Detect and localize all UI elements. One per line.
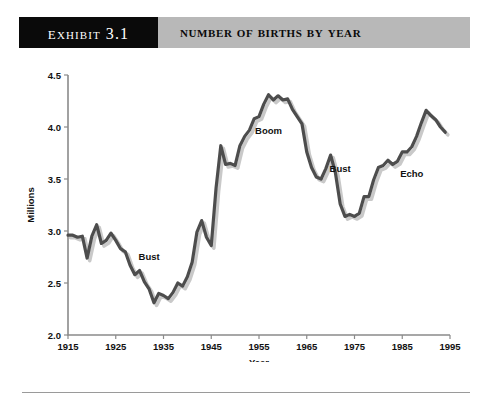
exhibit-title-block: Number of Births by Year bbox=[158, 17, 470, 48]
footer-divider bbox=[22, 392, 470, 393]
y-tick-label: 2.5 bbox=[48, 278, 62, 289]
x-tick-label: 1945 bbox=[201, 341, 223, 352]
chart-axes bbox=[64, 75, 450, 339]
exhibit-number-block: Exhibit 3.1 bbox=[19, 17, 158, 48]
annotation-bust: Bust bbox=[139, 251, 161, 262]
exhibit-header: Exhibit 3.1 Number of Births by Year bbox=[19, 17, 470, 48]
x-tick-label: 1915 bbox=[57, 341, 79, 352]
x-tick-label: 1925 bbox=[105, 341, 127, 352]
annotation-bust: Bust bbox=[330, 163, 352, 174]
chart-container: 2.02.53.03.54.04.51915192519351945195519… bbox=[0, 52, 489, 362]
x-tick-label: 1965 bbox=[296, 341, 318, 352]
exhibit-title-label: Number of Births by Year bbox=[180, 24, 361, 41]
annotation-echo: Echo bbox=[400, 168, 423, 179]
x-tick-label: 1975 bbox=[344, 341, 366, 352]
exhibit-number-label: Exhibit 3.1 bbox=[48, 22, 129, 44]
annotation-boom: Boom bbox=[255, 125, 282, 136]
y-tick-label: 2.0 bbox=[48, 330, 61, 341]
chart-annotations: BustBoomBustEcho bbox=[139, 125, 424, 262]
chart-tick-labels: 2.02.53.03.54.04.51915192519351945195519… bbox=[48, 70, 461, 353]
y-axis-title: Millions bbox=[25, 187, 36, 222]
x-tick-label: 1985 bbox=[392, 341, 414, 352]
x-tick-label: 1995 bbox=[439, 341, 461, 352]
x-tick-label: 1935 bbox=[153, 341, 175, 352]
y-tick-label: 4.0 bbox=[48, 122, 61, 133]
y-tick-label: 4.5 bbox=[48, 70, 62, 81]
x-axis-title: Year bbox=[249, 357, 269, 362]
x-tick-label: 1955 bbox=[248, 341, 270, 352]
exhibit-figure: Exhibit 3.1 Number of Births by Year 2.0… bbox=[0, 0, 489, 402]
y-tick-label: 3.0 bbox=[48, 226, 61, 237]
y-tick-label: 3.5 bbox=[48, 174, 62, 185]
births-line-chart: 2.02.53.03.54.04.51915192519351945195519… bbox=[0, 52, 489, 362]
